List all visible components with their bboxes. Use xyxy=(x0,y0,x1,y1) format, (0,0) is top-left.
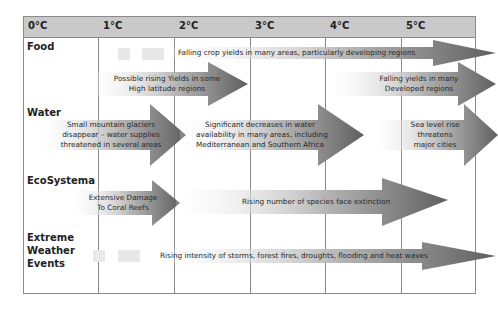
impact-text: Falling yields in many Developed regions xyxy=(374,74,464,94)
header-0c: 0°C xyxy=(28,20,47,31)
header-5c: 5°C xyxy=(406,20,425,31)
impact-text-line: Sea level rise xyxy=(398,120,472,130)
header-3c: 3°C xyxy=(255,20,274,31)
arrow-mountain-glaciers: Small mountain glaciers disappear – wate… xyxy=(38,104,186,166)
temperature-header-row: 0°C 1°C 2°C 3°C 4°C 5°C xyxy=(24,17,475,38)
impact-text: Rising intensity of storms, forest fires… xyxy=(160,251,428,261)
impact-text: Extensive Damage To Coral Reefs xyxy=(86,193,160,213)
impact-text: Small mountain glaciers disappear – wate… xyxy=(56,120,166,150)
impact-text-line: Developed regions xyxy=(374,84,464,94)
fade-block xyxy=(118,48,130,60)
impact-text-line: Small mountain glaciers xyxy=(56,120,166,130)
arrow-sea-level-rise: Sea level rise threatens major cities xyxy=(374,104,498,166)
impact-text-line: disappear – water supplies xyxy=(56,130,166,140)
impact-text: Possible rising Yields in some High lati… xyxy=(112,74,222,94)
fade-block xyxy=(118,250,140,262)
impact-text: Significant decreases in water availabil… xyxy=(196,120,324,150)
header-2c: 2°C xyxy=(179,20,198,31)
fade-block xyxy=(93,250,105,262)
impact-text-line: availability in many areas, including xyxy=(196,130,324,140)
impact-text: Sea level rise threatens major cities xyxy=(398,120,472,150)
row-label-line: Extreme xyxy=(27,231,75,244)
row-label-line: Events xyxy=(27,257,75,270)
arrow-rising-yields-high-latitude: Possible rising Yields in some High lati… xyxy=(90,62,248,106)
fade-block xyxy=(142,48,164,60)
impact-text-line: High latitude regions xyxy=(112,84,222,94)
row-label-line: Weather xyxy=(27,244,75,257)
impact-text-line: threatens xyxy=(398,130,472,140)
row-label-extreme-weather: Extreme Weather Events xyxy=(27,231,75,270)
impact-text-line: Extensive Damage xyxy=(86,193,160,203)
impact-text-line: Significant decreases in water xyxy=(196,120,324,130)
impact-text-line: major cities xyxy=(398,140,472,150)
arrow-falling-yields-developed: Falling yields in many Developed regions xyxy=(330,62,496,106)
header-4c: 4°C xyxy=(330,20,349,31)
arrow-species-extinction: Rising number of species face extinction xyxy=(176,178,448,226)
arrow-coral-reef-damage: Extensive Damage To Coral Reefs xyxy=(72,180,180,226)
arrow-water-decreases: Significant decreases in water availabil… xyxy=(180,104,364,166)
row-label-food: Food xyxy=(27,40,54,53)
impact-text: Rising number of species face extinction xyxy=(242,197,390,207)
impact-text-line: Mediterranean and Southern Africa xyxy=(196,140,324,150)
header-1c: 1°C xyxy=(103,20,122,31)
impact-text-line: Falling yields in many xyxy=(374,74,464,84)
impact-text-line: threatened in several areas xyxy=(56,140,166,150)
impact-text-line: Possible rising Yields in some xyxy=(112,74,222,84)
arrow-extreme-weather-intensity: Rising intensity of storms, forest fires… xyxy=(150,242,496,270)
impact-text: Falling crop yields in many areas, parti… xyxy=(178,48,415,58)
impact-text-line: To Coral Reefs xyxy=(86,203,160,213)
